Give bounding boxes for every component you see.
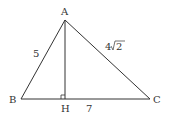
side-ac-radicand: 2 <box>116 41 122 52</box>
side-ac-coefficient: 4 <box>105 41 111 52</box>
vertex-c-label: C <box>153 94 161 105</box>
side-hc-length: 7 <box>86 103 92 114</box>
vertex-b-label: B <box>9 94 16 105</box>
vertex-a-label: A <box>60 6 69 17</box>
triangle-diagram: A B C H 5 7 4 2 <box>0 0 171 117</box>
side-ab-length: 5 <box>33 48 39 59</box>
right-angle-mark <box>61 95 65 99</box>
vertex-h-label: H <box>61 103 70 114</box>
side-ab <box>21 20 65 99</box>
side-ac-length: 4 2 <box>105 41 125 52</box>
side-ac <box>65 20 150 99</box>
